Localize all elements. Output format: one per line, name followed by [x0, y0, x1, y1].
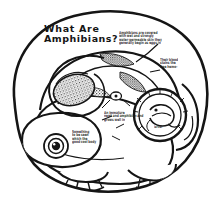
- tadpole-inset: [133, 89, 188, 141]
- illustration-sheet: What Are Amphibians? Amphibians are cove…: [0, 0, 220, 197]
- amphibian-illustration: [0, 0, 220, 197]
- salamander-eye: [44, 134, 68, 158]
